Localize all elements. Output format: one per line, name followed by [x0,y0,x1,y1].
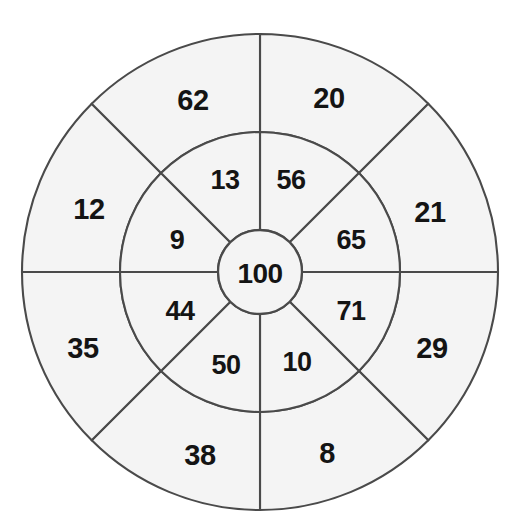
middle-label-13: 13 [210,165,240,195]
outer-label-35: 35 [67,332,99,364]
outer-label-29: 29 [416,332,448,364]
middle-label-44: 44 [165,296,195,326]
outer-label-20: 20 [313,82,344,114]
outer-label-12: 12 [73,193,104,225]
middle-label-56: 56 [276,165,306,195]
middle-label-10: 10 [282,347,311,377]
middle-label-50: 50 [211,350,240,380]
middle-label-71: 71 [336,296,366,326]
center-value-label: 100 [237,258,282,289]
middle-label-9: 9 [170,225,185,255]
outer-label-8: 8 [319,437,335,469]
outer-label-21: 21 [414,196,446,228]
ring-number-diagram: 202129838351262 566571105044913 100 [0,0,514,525]
middle-label-65: 65 [336,225,366,255]
outer-label-38: 38 [184,439,216,471]
dartboard-svg: 202129838351262 566571105044913 100 [0,0,514,525]
outer-label-62: 62 [177,84,208,116]
